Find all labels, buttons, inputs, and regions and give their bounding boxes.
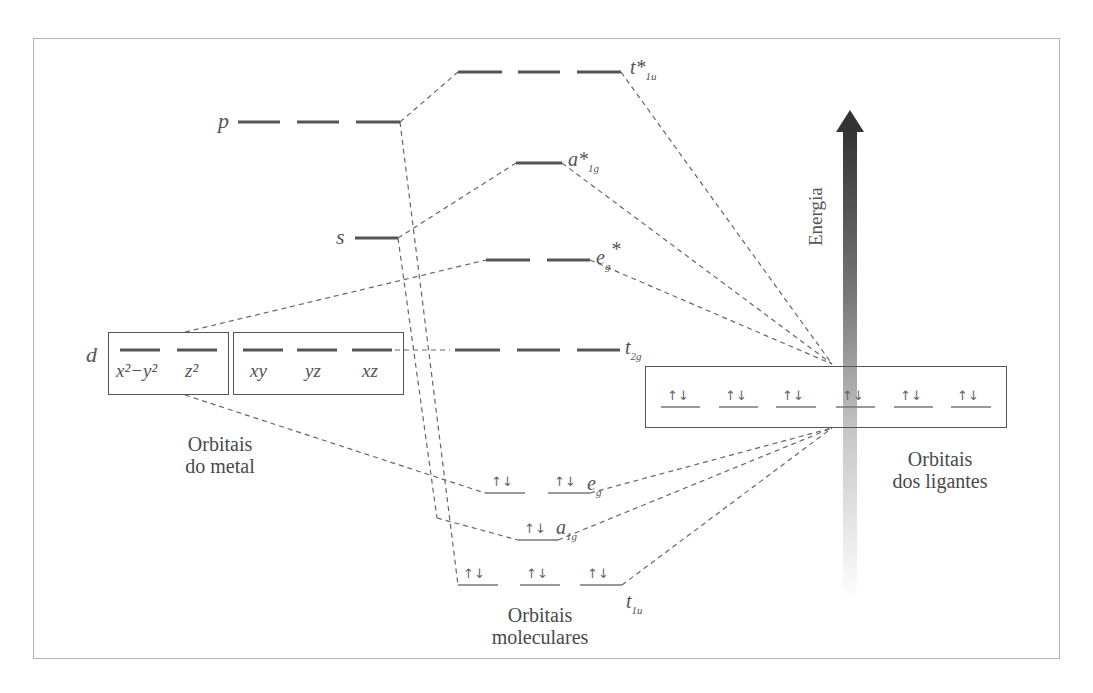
mo-label-t1u: t1u xyxy=(626,590,643,613)
electron-pair: ↑↓ xyxy=(554,474,576,489)
energy-arrow xyxy=(836,110,864,600)
mo-label-eg: eg xyxy=(587,472,601,495)
orbital-dxz-label: xz xyxy=(362,360,378,382)
metal-d-label: d xyxy=(86,342,97,368)
caption-metal-orbitals: Orbitaisdo metal xyxy=(155,433,285,477)
orbital-dz2-label: z² xyxy=(185,360,198,382)
caption-ligand-orbitals: Orbitaisdos ligantes xyxy=(865,448,1015,492)
ligand-electron-pair: ↑↓ xyxy=(900,388,922,403)
electron-pair: ↑↓ xyxy=(526,566,548,581)
mo-label-a1g-star: a*1g xyxy=(568,148,599,171)
energy-axis-label: Energia xyxy=(805,187,827,246)
caption-molecular-orbitals: Orbitaismoleculares xyxy=(470,604,610,648)
ligand-electron-pair: ↑↓ xyxy=(842,388,864,403)
ligand-electron-pair: ↑↓ xyxy=(725,388,747,403)
electron-pair: ↑↓ xyxy=(587,566,609,581)
metal-p-label: p xyxy=(218,108,229,134)
electron-pair: ↑↓ xyxy=(491,474,513,489)
mo-label-t1u-star: t*1u xyxy=(630,56,657,79)
orbital-dx2y2-label: x²−y² xyxy=(116,360,157,382)
ligand-electron-pair: ↑↓ xyxy=(667,388,689,403)
mo-label-eg-star: eg* xyxy=(596,246,620,269)
orbital-dyz-label: yz xyxy=(305,360,321,382)
electron-pair: ↑↓ xyxy=(463,566,485,581)
orbital-dxy-label: xy xyxy=(250,360,267,382)
mo-label-t2g: t2g xyxy=(625,336,642,359)
correlation-lines xyxy=(185,72,832,585)
energy-levels xyxy=(120,72,621,350)
electron-pair: ↑↓ xyxy=(524,521,546,536)
ligand-electron-pair: ↑↓ xyxy=(782,388,804,403)
mo-label-a1g: a1g xyxy=(556,516,577,539)
ligand-electron-pair: ↑↓ xyxy=(957,388,979,403)
ligand-orbitals-box xyxy=(645,366,1007,428)
metal-s-label: s xyxy=(336,224,345,250)
filled-levels xyxy=(458,407,991,585)
